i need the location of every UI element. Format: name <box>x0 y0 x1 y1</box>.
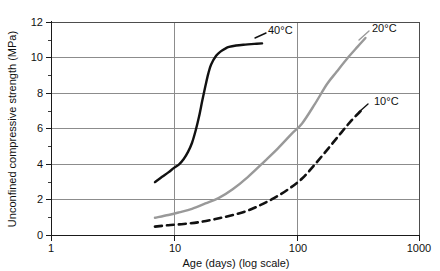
x-tick-label: 1000 <box>407 242 431 254</box>
y-tick-label: 8 <box>37 87 43 99</box>
x-tick-label: 10 <box>169 242 181 254</box>
series-label-40c: 40°C <box>268 24 293 36</box>
y-axis-title: Unconfined compressive strength (MPa) <box>6 31 18 227</box>
y-tick-label: 4 <box>37 158 43 170</box>
y-tick-label: 6 <box>37 122 43 134</box>
chart-container: 0 2 4 6 8 10 12 1 10 100 1000 Age (days)… <box>0 0 440 271</box>
series-label-20c: 20°C <box>372 22 397 34</box>
x-axis-title: Age (days) (log scale) <box>183 257 290 269</box>
chart-background <box>0 0 440 271</box>
x-tick-label: 100 <box>289 242 307 254</box>
chart-figure: 0 2 4 6 8 10 12 1 10 100 1000 Age (days)… <box>0 0 440 271</box>
y-tick-label: 0 <box>37 229 43 241</box>
y-tick-label: 2 <box>37 193 43 205</box>
x-tick-label: 1 <box>48 242 54 254</box>
y-tick-label: 10 <box>31 51 43 63</box>
series-label-10c: 10°C <box>374 95 399 107</box>
y-tick-label: 12 <box>31 16 43 28</box>
